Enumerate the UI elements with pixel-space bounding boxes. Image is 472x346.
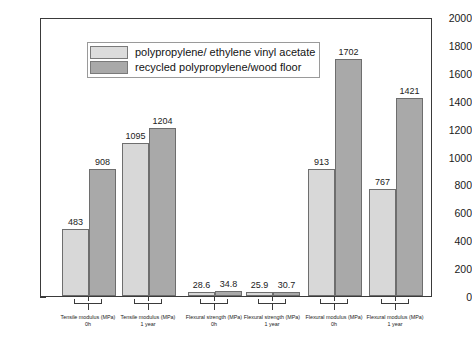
bar-value-label: 913 bbox=[304, 158, 339, 167]
x-category-line2: 1 year bbox=[114, 321, 182, 328]
y-tick-label: 1200 bbox=[438, 125, 472, 135]
x-category-line1: Flexural strength (MPa) bbox=[186, 314, 242, 320]
chart-legend: polypropylene/ ethylene vinyl acetate re… bbox=[87, 42, 320, 78]
x-category-label: Flexural modulus (MPa)1 year bbox=[361, 314, 429, 327]
bar-value-label: 1204 bbox=[145, 117, 180, 126]
y-tick-label: 1000 bbox=[438, 153, 472, 163]
bar bbox=[246, 292, 273, 296]
y-tick-label: 1800 bbox=[438, 41, 472, 51]
bracket-stem bbox=[148, 304, 149, 310]
bar-chart: 0200400600800100012001400160018002000 48… bbox=[0, 0, 472, 346]
bar bbox=[122, 143, 149, 296]
y-tick-label: 1400 bbox=[438, 97, 472, 107]
x-category-label: Tensile modulus (MPa)0h bbox=[54, 314, 122, 327]
legend-item-0: polypropylene/ ethylene vinyl acetate bbox=[90, 45, 315, 60]
bar-value-label: 1702 bbox=[331, 48, 366, 57]
y-tick-label: 200 bbox=[438, 264, 472, 274]
x-category-label: Tensile modulus (MPa)1 year bbox=[114, 314, 182, 327]
bracket-stem bbox=[88, 304, 89, 310]
bar-value-label: 483 bbox=[58, 218, 93, 227]
bar bbox=[215, 291, 242, 296]
bar-value-label: 1095 bbox=[118, 132, 153, 141]
bar-value-label: 767 bbox=[365, 178, 400, 187]
x-category-line1: Flexural strength (MPa) bbox=[244, 314, 300, 320]
bar bbox=[188, 292, 215, 296]
bar-value-label: 908 bbox=[85, 158, 120, 167]
y-tick-label: 800 bbox=[438, 180, 472, 190]
bracket-stem bbox=[395, 304, 396, 310]
x-category-label: Flexural strength (MPa)1 year bbox=[238, 314, 306, 327]
bar bbox=[149, 128, 176, 296]
bar-value-label: 30.7 bbox=[269, 281, 304, 290]
legend-item-1: recycled polypropylene/wood floor bbox=[90, 60, 315, 75]
y-tick-label: 0 bbox=[438, 292, 472, 302]
x-category-line2: 1 year bbox=[361, 321, 429, 328]
bar bbox=[396, 98, 423, 296]
x-category-line2: 0h bbox=[54, 321, 122, 328]
x-category-line2: 1 year bbox=[238, 321, 306, 328]
plot-area: 4839081095120428.634.825.930.79131702767… bbox=[40, 18, 432, 297]
y-tick-label: 600 bbox=[438, 208, 472, 218]
bar bbox=[62, 229, 89, 296]
bar bbox=[273, 292, 300, 296]
bracket-stem bbox=[334, 304, 335, 310]
bar bbox=[369, 189, 396, 296]
y-tick-label: 400 bbox=[438, 236, 472, 246]
legend-swatch-light bbox=[90, 46, 128, 59]
bar bbox=[308, 169, 335, 296]
bar-value-label: 34.8 bbox=[211, 280, 246, 289]
legend-swatch-dark bbox=[90, 61, 128, 74]
bracket-stem bbox=[272, 304, 273, 310]
x-category-line1: Tensile modulus (MPa) bbox=[61, 314, 116, 320]
y-tick-label: 1600 bbox=[438, 69, 472, 79]
legend-label-0: polypropylene/ ethylene vinyl acetate bbox=[135, 46, 315, 59]
bar-value-label: 1421 bbox=[392, 87, 427, 96]
y-tick-label: 2000 bbox=[438, 13, 472, 23]
legend-label-1: recycled polypropylene/wood floor bbox=[135, 61, 301, 74]
x-category-line1: Flexural modulus (MPa) bbox=[305, 314, 362, 320]
bar bbox=[335, 59, 362, 296]
x-category-line1: Tensile modulus (MPa) bbox=[121, 314, 176, 320]
x-category-line2: 0h bbox=[300, 321, 368, 328]
y-tick-major bbox=[40, 297, 46, 298]
x-category-line1: Flexural modulus (MPa) bbox=[366, 314, 423, 320]
x-category-label: Flexural modulus (MPa)0h bbox=[300, 314, 368, 327]
bar bbox=[89, 169, 116, 296]
bracket-stem bbox=[214, 304, 215, 310]
